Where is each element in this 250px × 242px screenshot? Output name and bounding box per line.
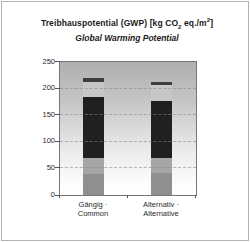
y-axis-label-100: 100 (42, 136, 55, 145)
x-axis-tick-middle (127, 195, 128, 198)
gridline-100 (60, 141, 196, 142)
chart-frame: Treibhauspotential (GWP) [kg CO2 eq./m2]… (1, 1, 249, 241)
y-axis-tick-250 (55, 61, 60, 62)
category-label-common: Gängig · Common (61, 200, 125, 218)
category-label-alternative: Alternativ · Alternative (129, 200, 193, 218)
gridline-150 (60, 114, 196, 115)
chart-title-block: Treibhauspotential (GWP) [kg CO2 eq./m2]… (2, 15, 250, 44)
bar-segment-light-gray (83, 82, 104, 97)
bar-segment-bottom-gray (151, 173, 172, 195)
gridline-50 (60, 167, 196, 168)
bar-1 (151, 62, 172, 195)
y-axis-label-150: 150 (42, 110, 55, 119)
y-axis-label-250: 250 (42, 57, 55, 66)
y-axis-tick-100 (55, 141, 60, 142)
bar-segment-bottom-gray (83, 174, 104, 195)
x-axis-tick-right (195, 195, 196, 198)
y-axis-tick-150 (55, 114, 60, 115)
bar-segment-black (151, 101, 172, 157)
x-axis-labels: Gängig · Common Alternativ · Alternative (2, 200, 250, 222)
gridline-200 (60, 88, 196, 89)
chart-subtitle: Global Warming Potential (2, 33, 250, 44)
y-axis-label-50: 50 (47, 163, 55, 172)
bar-0 (83, 62, 104, 195)
chart-title: Treibhauspotential (GWP) [kg CO2 eq./m2] (2, 15, 250, 33)
y-axis-labels: 050100150200250 (2, 61, 55, 194)
bar-segment-black (83, 97, 104, 158)
plot-area (59, 61, 197, 196)
y-axis-label-0: 0 (51, 190, 55, 199)
y-axis-tick-200 (55, 88, 60, 89)
y-axis-tick-50 (55, 167, 60, 168)
bar-segment-mid-gray (83, 158, 104, 174)
y-axis-label-200: 200 (42, 83, 55, 92)
bar-segment-mid-gray (151, 158, 172, 173)
y-axis-tick-0 (55, 195, 60, 196)
